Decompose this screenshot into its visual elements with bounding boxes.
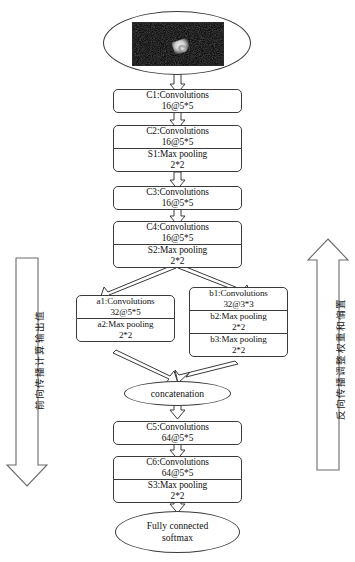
node-a1-line1: a1:Convolutions [96,296,154,308]
arrow-concat-to-c5 [170,404,185,419]
node-c4-line2: 16@5*5 [162,233,193,245]
node-c6[interactable]: C6:Convolutions 64@5*5 [113,456,242,480]
node-s1-line2: 2*2 [171,160,185,172]
node-c5-line1: C5:Convolutions [146,422,209,434]
backward-pass-label: 反向传播调整权重和偏置 [333,298,347,420]
node-s2-line1: S2:Max pooling [148,245,207,257]
node-b1[interactable]: b1:Convolutions 32@3*3 [189,287,288,311]
node-b1-line2: 32@3*3 [223,299,253,311]
forward-pass-label: 前向传播计算输出值 [32,310,46,410]
node-c1[interactable]: C1:Convolutions 16@5*5 [113,89,242,113]
node-b1-line1: b1:Convolutions [209,288,268,300]
node-c1-line1: C1:Convolutions [146,90,209,102]
node-a2-line1: a2:Max pooling [98,319,154,331]
node-a1-line2: 32@5*5 [110,307,140,319]
node-c4-line1: C4:Convolutions [146,222,209,234]
node-c5-line2: 64@5*5 [162,433,193,445]
arrow-b3-to-concat [175,361,238,383]
node-s1-line1: S1:Max pooling [148,149,207,161]
node-s3-line1: S3:Max pooling [148,480,207,492]
node-c2[interactable]: C2:Convolutions 16@5*5 [113,125,242,149]
node-concatenation[interactable]: concatenation [124,381,231,406]
node-c6-line1: C6:Convolutions [146,457,209,469]
node-s3-line2: 2*2 [171,491,185,503]
node-s2[interactable]: S2:Max pooling 2*2 [113,244,242,268]
diagram-canvas: .ln{fill:#ffffff;stroke:#3a3a3a;stroke-w… [0,0,355,562]
node-c4[interactable]: C4:Convolutions 16@5*5 [113,221,242,245]
node-s1[interactable]: S1:Max pooling 2*2 [113,148,242,172]
node-b3-line1: b3:Max pooling [210,334,266,346]
arrow-a2-to-concat [113,350,178,384]
node-c3-line2: 16@5*5 [162,198,193,210]
node-b2-line1: b2:Max pooling [210,311,266,323]
node-c3[interactable]: C3:Convolutions 16@5*5 [113,186,242,210]
node-output-line1: Fully connected [147,520,209,532]
node-b3-line2: 2*2 [232,345,245,357]
node-a1[interactable]: a1:Convolutions 32@5*5 [76,295,175,319]
node-s3[interactable]: S3:Max pooling 2*2 [113,479,242,503]
node-output-line2: softmax [162,532,193,544]
node-c5[interactable]: C5:Convolutions 64@5*5 [113,421,242,445]
group-c2-s1: C2:Convolutions 16@5*5 S1:Max pooling 2*… [113,125,242,173]
node-c1-line2: 16@5*5 [162,101,193,113]
node-c2-line1: C2:Convolutions [146,126,209,138]
group-c4-s2: C4:Convolutions 16@5*5 S2:Max pooling 2*… [113,221,242,269]
node-c3-line1: C3:Convolutions [146,187,209,199]
node-c2-line2: 16@5*5 [162,137,193,149]
group-branch-a: a1:Convolutions 32@5*5 a2:Max pooling 2*… [76,295,175,343]
node-b3[interactable]: b3:Max pooling 2*2 [189,333,288,357]
node-b2[interactable]: b2:Max pooling 2*2 [189,310,288,334]
node-a2[interactable]: a2:Max pooling 2*2 [76,318,175,342]
node-concatenation-label: concatenation [151,388,204,400]
node-s2-line2: 2*2 [171,256,185,268]
node-c6-line2: 64@5*5 [162,468,193,480]
node-a2-line2: 2*2 [119,330,132,342]
group-c6-s3: C6:Convolutions 64@5*5 S3:Max pooling 2*… [113,456,242,504]
node-output[interactable]: Fully connected softmax [115,511,240,553]
input-image [132,22,224,66]
group-branch-b: b1:Convolutions 32@3*3 b2:Max pooling 2*… [189,287,288,359]
node-b2-line2: 2*2 [232,322,245,334]
